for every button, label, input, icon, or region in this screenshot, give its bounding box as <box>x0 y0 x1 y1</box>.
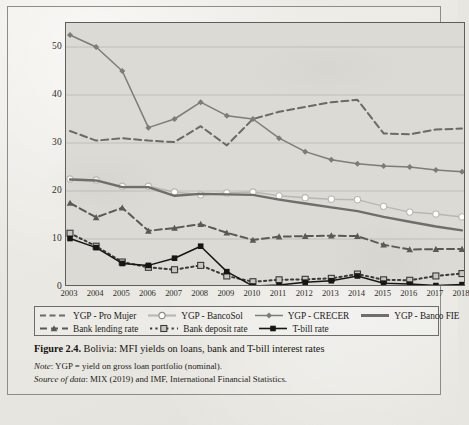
y-tick-label: 20 <box>38 185 62 195</box>
note-label: Note <box>34 361 51 371</box>
legend-row-1: YGP - Pro MujerYGP - BancoSolYGP - CRECE… <box>39 309 434 322</box>
legend-item: YGP - Banco FIE <box>360 310 459 321</box>
solid-filled-square-icon <box>258 323 288 334</box>
legend-item: YGP - CRECER <box>254 310 350 321</box>
caption-title-line: Figure 2.4. Bolivia: MFI yields on loans… <box>34 343 440 356</box>
series-bank-lending-rate <box>67 200 465 253</box>
y-axis-labels: 01020304050 <box>34 22 62 286</box>
x-tick-label: 2017 <box>426 288 443 298</box>
x-tick-label: 2008 <box>191 288 208 298</box>
chart-area: 01020304050 2003200420052006200720082009… <box>34 17 442 302</box>
series-t-bill-rate <box>67 236 465 286</box>
x-tick-label: 2009 <box>217 288 234 298</box>
series-ygp-crecer <box>67 32 465 175</box>
x-tick-label: 2012 <box>296 288 313 298</box>
figure-caption: Figure 2.4. Bolivia: MFI yields on loans… <box>34 343 440 388</box>
figure-title: Bolivia: MFI yields on loans, bank and T… <box>84 343 325 354</box>
dotted-open-square-icon <box>149 323 179 334</box>
x-tick-label: 2011 <box>270 288 286 298</box>
dashed-triangle-icon <box>39 323 69 334</box>
y-tick-label: 30 <box>38 137 62 147</box>
y-tick-label: 40 <box>38 89 62 99</box>
legend-item: YGP - Pro Mujer <box>39 310 136 321</box>
legend-item-label: YGP - Banco FIE <box>394 311 459 321</box>
x-tick-label: 2018 <box>453 288 469 298</box>
figure-number: Figure 2.4. <box>34 343 81 354</box>
caption-source: Source of data: MIX (2019) and IMF, Inte… <box>34 374 440 386</box>
legend-row-2: Bank lending rateBank deposit rateT-bill… <box>39 322 434 335</box>
x-tick-label: 2013 <box>322 288 339 298</box>
line-open-circle-icon <box>147 310 177 321</box>
source-text: : MIX (2019) and IMF, International Fina… <box>85 374 287 384</box>
note-text: : YGP = yield on gross loan portfolio (n… <box>51 361 222 371</box>
legend-item-label: YGP - BancoSol <box>181 311 242 321</box>
legend-item-label: Bank deposit rate <box>183 324 247 334</box>
y-tick-label: 50 <box>38 41 62 51</box>
x-tick-label: 2004 <box>87 288 104 298</box>
legend-item-label: YGP - Pro Mujer <box>73 311 136 321</box>
dashed-line-icon <box>39 310 69 321</box>
x-tick-label: 2014 <box>348 288 365 298</box>
figure-frame: 01020304050 2003200420052006200720082009… <box>7 6 441 395</box>
x-tick-label: 2015 <box>374 288 391 298</box>
thick-solid-line-icon <box>360 310 390 321</box>
x-tick-label: 2005 <box>113 288 130 298</box>
x-tick-label: 2010 <box>244 288 261 298</box>
y-tick-label: 10 <box>38 233 62 243</box>
legend-item-label: T-bill rate <box>292 324 328 334</box>
series-lines <box>67 32 465 286</box>
legend-item: Bank lending rate <box>39 323 138 334</box>
y-tick-label: 0 <box>38 281 62 291</box>
caption-note: Note: YGP = yield on gross loan portfoli… <box>34 361 440 373</box>
series-ygp-banco-fie <box>70 179 462 230</box>
legend-item: YGP - BancoSol <box>147 310 242 321</box>
chart-svg <box>66 23 465 286</box>
chart-legend: YGP - Pro MujerYGP - BancoSolYGP - CRECE… <box>34 306 439 336</box>
plot-box <box>65 22 465 286</box>
source-label: Source of data <box>34 374 85 384</box>
legend-item-label: Bank lending rate <box>73 324 138 334</box>
legend-item: T-bill rate <box>258 323 328 334</box>
legend-item: Bank deposit rate <box>149 323 247 334</box>
series-ygp-pro-mujer <box>70 100 462 146</box>
x-tick-label: 2003 <box>61 288 78 298</box>
x-tick-label: 2007 <box>165 288 182 298</box>
x-axis-labels: 2003200420052006200720082009201020112012… <box>65 288 465 304</box>
line-diamond-icon <box>254 310 284 321</box>
legend-item-label: YGP - CRECER <box>288 311 350 321</box>
x-tick-label: 2016 <box>400 288 417 298</box>
x-tick-label: 2006 <box>139 288 156 298</box>
